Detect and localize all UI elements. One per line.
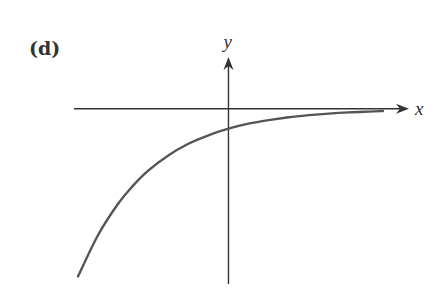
- series-line-curve: [78, 111, 383, 276]
- series-layer: [78, 111, 383, 276]
- y-axis-label: y: [221, 31, 232, 52]
- chart: (d) x y: [0, 0, 445, 296]
- x-axis-label: x: [414, 98, 424, 119]
- y-axis: y: [221, 31, 233, 284]
- x-axis: x: [74, 98, 424, 119]
- panel-label: (d): [29, 37, 60, 59]
